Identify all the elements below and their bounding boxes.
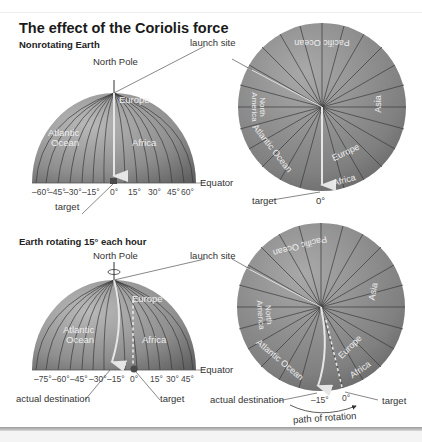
tick: –15° [107,374,125,384]
tick: 15° [150,374,163,384]
svg-text:Asia: Asia [373,95,383,113]
tick: –60° [52,374,70,384]
region-africa: Africa [132,137,156,148]
rotating-subtitle: Earth rotating 15° each hour [19,236,146,247]
page-underlay [0,431,422,442]
nonrotating-top-disc: Pacific Ocean North America Asia Atlanti… [232,23,406,200]
tick: 0° [110,187,118,197]
zero-label-rotating-top-view: 0° [342,393,350,403]
region-ocean-rotating: Ocean [66,334,94,345]
tick: –60° [32,187,50,197]
diagram-page: Pacific Ocean North America Asia Atlanti… [0,0,422,442]
target-label-top-view: target [252,195,276,206]
region-ocean: Ocean [51,137,79,148]
tick: –45° [48,187,66,197]
target-label-rotating-top-view: target [382,395,406,406]
minus15-label: –15° [311,395,329,405]
rotating-top-disc: Pacific Ocean North America Asia Atlanti… [232,223,405,413]
equator-label-rotating: Equator [200,364,233,375]
region-africa-rotating: Africa [142,334,166,345]
zero-label-top-view: 0° [316,195,325,206]
target-label-rotating: target [160,393,184,404]
tick: 45° [167,187,180,197]
diagram-title: The effect of the Coriolis force [19,20,228,36]
tick: –30° [89,374,107,384]
target-label: target [55,201,79,212]
actual-destination-label: actual destination [16,393,90,404]
launch-site-label: launch site [190,37,235,48]
tick: –75° [34,374,52,384]
north-pole-label: North Pole [93,56,138,67]
tick: 60° [181,187,194,197]
tick: 15° [128,187,141,197]
nonrotating-subtitle: Nonrotating Earth [19,39,100,50]
svg-text:Pacific Ocean: Pacific Ocean [294,38,350,48]
actual-destination-label-top-view: actual destination [210,394,284,405]
launch-site-label-rotating: launch site [190,250,235,261]
tick: 45° [181,374,194,384]
tick: –30° [64,187,82,197]
svg-text:America: America [250,92,259,122]
equator-label: Equator [200,177,233,188]
region-europe: Europe [119,94,150,105]
north-pole-label-rotating: North Pole [93,250,138,261]
region-europe-rotating: Europe [132,293,163,304]
tick: 30° [148,187,161,197]
tick: 30° [166,374,179,384]
tick: 0° [130,374,138,384]
tick: –15° [82,187,100,197]
tick: –45° [70,374,88,384]
